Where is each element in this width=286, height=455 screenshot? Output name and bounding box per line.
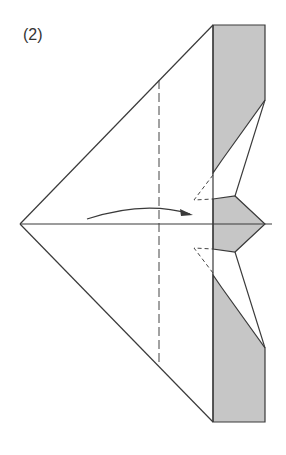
fold-diagram bbox=[0, 0, 286, 455]
hidden-edge-bottom bbox=[194, 248, 213, 273]
outline-top-edge bbox=[20, 25, 213, 224]
fold-arrowhead bbox=[180, 209, 193, 216]
hidden-edge-top bbox=[194, 175, 213, 200]
outline-bottom-edge bbox=[20, 224, 213, 422]
shaded-top-flap bbox=[213, 25, 265, 173]
shaded-bottom-flap bbox=[213, 275, 265, 422]
fold-arrow bbox=[87, 208, 190, 219]
